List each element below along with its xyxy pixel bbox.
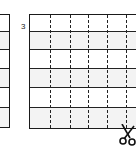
grid-row xyxy=(0,32,9,50)
scissors-icon xyxy=(118,124,136,146)
grid-row xyxy=(0,88,9,108)
cut-line xyxy=(50,15,51,128)
row-number-label: 3 xyxy=(21,22,25,31)
grid-row xyxy=(0,108,9,128)
grid-row xyxy=(0,15,9,32)
grid-row xyxy=(0,69,9,88)
cut-line xyxy=(70,15,71,128)
cut-line xyxy=(126,15,127,128)
grid-row xyxy=(0,50,9,69)
grid-row xyxy=(30,50,136,69)
cut-line xyxy=(107,15,108,128)
cut-line xyxy=(88,15,89,128)
grid-row xyxy=(30,88,136,108)
grid-row xyxy=(30,15,136,32)
grid-row xyxy=(30,32,136,50)
left-grid xyxy=(0,14,10,128)
right-grid xyxy=(29,14,136,129)
grid-row xyxy=(30,69,136,88)
